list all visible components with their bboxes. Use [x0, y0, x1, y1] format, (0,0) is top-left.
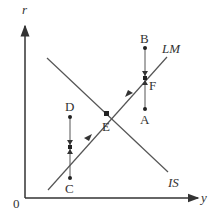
- arrow-a-to-f-icon: [142, 80, 148, 85]
- islm-diagram: r y 0 IS LM B A F D C E: [0, 0, 217, 216]
- lm-arrow-lower-icon: [84, 134, 92, 141]
- label-b: B: [140, 31, 149, 46]
- y-axis-label: r: [22, 2, 28, 17]
- lm-label: LM: [161, 41, 181, 56]
- x-axis-label: y: [199, 190, 207, 205]
- point-a: [143, 107, 147, 111]
- label-c: C: [65, 181, 74, 196]
- arrow-d-to-lm-icon: [67, 140, 73, 145]
- is-label: IS: [167, 175, 179, 190]
- point-e: [104, 111, 109, 116]
- label-f: F: [149, 78, 156, 93]
- point-cd-lm: [68, 145, 72, 149]
- label-a: A: [140, 112, 150, 127]
- point-c: [68, 176, 72, 180]
- label-d: D: [65, 99, 74, 114]
- arrow-c-to-lm-icon: [67, 149, 73, 154]
- point-f: [143, 76, 147, 80]
- origin-label: 0: [13, 196, 20, 211]
- arrow-b-to-f-icon: [142, 71, 148, 76]
- label-e: E: [102, 119, 110, 134]
- point-d: [68, 115, 72, 119]
- point-b: [143, 46, 147, 50]
